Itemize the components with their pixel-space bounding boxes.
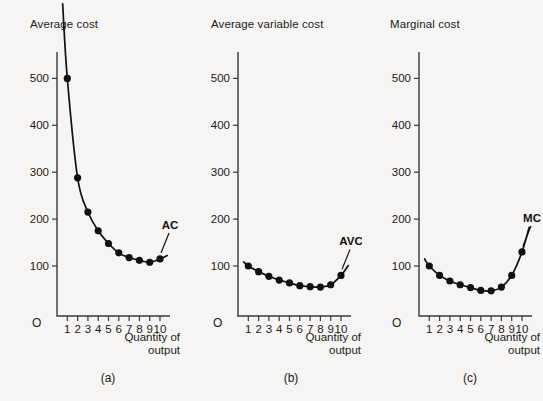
x-axis-caption: Quantity of output <box>62 331 180 356</box>
data-point <box>488 287 495 294</box>
y-tick-label: 200 <box>211 213 230 225</box>
data-point <box>136 257 143 264</box>
x-axis-caption-line2: output <box>62 344 180 357</box>
data-point <box>337 272 344 279</box>
cost-curve <box>425 227 530 291</box>
data-point <box>508 272 515 279</box>
curve-label: AC <box>162 219 179 231</box>
y-tick-label: 200 <box>392 213 411 225</box>
data-point <box>265 273 272 280</box>
data-point <box>276 276 283 283</box>
x-axis-caption-line1: Quantity of <box>422 331 540 344</box>
data-point <box>105 240 112 247</box>
y-tick-label: 100 <box>211 260 230 272</box>
x-axis-caption-line1: Quantity of <box>243 331 361 344</box>
y-tick-label: 300 <box>392 166 411 178</box>
y-tick-label: 400 <box>392 119 411 131</box>
curve-label-leader <box>523 226 531 246</box>
y-tick-label: 300 <box>211 166 230 178</box>
y-tick-label: 200 <box>30 213 49 225</box>
origin-label: O <box>32 316 41 330</box>
panel-marginal-cost: Marginal cost 10020030040050012345678910… <box>362 0 543 401</box>
cost-curves-figure: Average cost 10020030040050012345678910A… <box>0 0 543 401</box>
y-tick-label: 500 <box>211 72 230 84</box>
panel-caption: (c) <box>450 371 490 385</box>
data-point <box>518 248 525 255</box>
data-point <box>436 272 443 279</box>
data-point <box>477 287 484 294</box>
x-axis-caption: Quantity of output <box>422 331 540 356</box>
data-point <box>74 174 81 181</box>
origin-label: O <box>392 316 401 330</box>
y-tick-label: 100 <box>30 260 49 272</box>
y-tick-label: 400 <box>211 119 230 131</box>
data-point <box>255 268 262 275</box>
data-point <box>327 281 334 288</box>
data-point <box>146 259 153 266</box>
curve-label-leader <box>342 249 350 269</box>
data-point <box>95 227 102 234</box>
data-point <box>64 75 71 82</box>
data-point <box>498 284 505 291</box>
data-point <box>457 281 464 288</box>
curve-label-leader <box>161 233 169 253</box>
data-point <box>84 208 91 215</box>
x-axis-caption-line2: output <box>243 344 361 357</box>
y-tick-label: 300 <box>30 166 49 178</box>
data-point <box>245 262 252 269</box>
x-axis-caption-line2: output <box>422 344 540 357</box>
cost-curve <box>63 4 168 262</box>
y-tick-label: 400 <box>30 119 49 131</box>
x-axis-caption: Quantity of output <box>243 331 361 356</box>
curve-label: MC <box>523 212 541 224</box>
data-point <box>446 277 453 284</box>
y-tick-label: 500 <box>392 72 411 84</box>
data-point <box>317 284 324 291</box>
data-point <box>307 283 314 290</box>
origin-label: O <box>213 316 222 330</box>
axis-lines <box>238 52 351 316</box>
data-point <box>296 282 303 289</box>
y-tick-label: 500 <box>30 72 49 84</box>
data-point <box>467 284 474 291</box>
panel-average-variable-cost: Average variable cost 100200300400500123… <box>181 0 362 401</box>
panel-caption: (b) <box>271 371 311 385</box>
curve-label: AVC <box>339 235 362 247</box>
data-point <box>286 279 293 286</box>
x-axis-caption-line1: Quantity of <box>62 331 180 344</box>
data-point <box>126 254 133 261</box>
data-point <box>156 255 163 262</box>
panel-caption: (a) <box>88 371 128 385</box>
y-tick-label: 100 <box>392 260 411 272</box>
data-point <box>426 262 433 269</box>
panel-average-cost: Average cost 10020030040050012345678910A… <box>0 0 181 401</box>
axis-lines <box>57 52 170 316</box>
data-point <box>115 249 122 256</box>
